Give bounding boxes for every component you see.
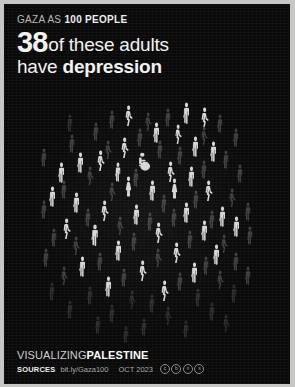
person-icon: [104, 276, 113, 297]
person-icon: [172, 242, 181, 263]
sources-url[interactable]: bit.ly/Gaza100: [61, 365, 109, 374]
person-icon: [187, 166, 196, 187]
person-icon: [132, 168, 140, 187]
person-icon: [208, 302, 216, 321]
person-icon: [100, 200, 109, 221]
person-icon: [90, 224, 100, 246]
person-icon: [204, 180, 213, 201]
person-icon: [92, 122, 100, 141]
person-icon: [68, 134, 76, 153]
big-number: 38: [17, 26, 47, 58]
brand-logo: VISUALIZINGPALESTINE: [17, 349, 280, 361]
person-icon: [76, 152, 85, 173]
brand-bold: PALESTINE: [87, 349, 149, 361]
cc-sa-icon: s: [194, 364, 204, 374]
person-icon: [84, 208, 92, 227]
poster-footer: VISUALIZINGPALESTINE SOURCESbit.ly/Gaza1…: [17, 349, 280, 374]
kicker-prefix: GAZA AS: [17, 14, 64, 25]
person-icon: [236, 164, 244, 183]
person-icon: [222, 150, 230, 169]
person-icon: [94, 316, 102, 334]
sources-line: SOURCESbit.ly/Gaza100OCT 2023 c b n s: [17, 364, 280, 374]
person-icon: [186, 230, 194, 249]
person-icon: [128, 290, 136, 309]
person-icon: [200, 126, 208, 145]
person-icon: [232, 216, 241, 237]
person-icon: [156, 140, 164, 159]
person-icon: [244, 202, 252, 221]
person-icon: [108, 182, 116, 201]
person-icon: [136, 128, 144, 147]
cc-by-icon: b: [171, 364, 181, 374]
person-icon: [194, 288, 202, 307]
poster-header: GAZA AS 100 PEOPLE 38of these adults hav…: [17, 15, 280, 77]
person-icon: [192, 190, 200, 209]
person-icon: [176, 272, 184, 291]
person-icon: [200, 160, 208, 179]
person-icon: [108, 304, 116, 323]
person-icon: [62, 218, 71, 239]
person-icon: [40, 148, 48, 167]
person-icon: [218, 206, 227, 227]
cc-nc-icon: n: [183, 364, 193, 374]
person-icon: [124, 105, 133, 126]
person-icon: [60, 266, 68, 285]
person-icon: [146, 212, 154, 231]
person-icon: [130, 232, 138, 251]
person-icon: [174, 124, 182, 144]
kicker-bold: 100 PEOPLE: [64, 14, 127, 25]
headline-line2-bold: depression: [62, 56, 161, 77]
headline-line1: of these adults: [48, 34, 169, 55]
person-icon: [216, 114, 224, 133]
person-icon: [114, 162, 122, 182]
person-icon: [222, 314, 230, 332]
person-icon: [48, 186, 57, 207]
brand-light: VISUALIZING: [17, 349, 87, 361]
person-icon: [40, 200, 48, 219]
page-title: 38of these adults have depression: [17, 32, 280, 77]
infographic-poster: GAZA AS 100 PEOPLE 38of these adults hav…: [0, 0, 295, 387]
person-icon: [104, 140, 112, 159]
person-icon: [144, 112, 152, 131]
person-icon: [86, 166, 94, 185]
headline-line2-prefix: have: [17, 56, 62, 77]
person-icon: [148, 180, 157, 201]
person-icon: [108, 110, 116, 129]
publish-date: OCT 2023: [118, 365, 152, 374]
person-icon: [86, 286, 94, 305]
cc-icon: c: [160, 364, 170, 374]
person-icon: [230, 284, 238, 303]
person-icon: [66, 114, 74, 132]
person-icon: [116, 216, 124, 235]
person-icon: [42, 248, 50, 267]
person-icon: [209, 141, 218, 162]
person-icon: [160, 194, 168, 213]
person-icon: [232, 128, 240, 147]
person-icon: [140, 318, 148, 336]
person-icon: [232, 252, 240, 271]
person-icon: [114, 240, 123, 261]
person-icon: [60, 180, 68, 199]
person-icon: [66, 300, 74, 319]
person-icon: [182, 320, 190, 338]
headline-line2: have depression: [17, 56, 280, 77]
poster-canvas: GAZA AS 100 PEOPLE 38of these adults hav…: [4, 4, 290, 384]
person-icon: [228, 188, 236, 207]
person-icon: [220, 234, 228, 253]
creative-commons-badges: c b n s: [160, 364, 205, 374]
person-icon: [182, 202, 191, 223]
person-icon: [246, 226, 254, 245]
person-icon: [50, 228, 58, 247]
person-icon: [190, 262, 199, 283]
person-icon: [120, 268, 128, 287]
person-icon: [132, 204, 141, 225]
person-icon: [170, 178, 179, 199]
person-icon: [120, 137, 129, 158]
person-icon: [191, 136, 200, 157]
person-icon: [200, 107, 209, 128]
person-icon: [244, 266, 252, 285]
person-icon: [170, 208, 178, 227]
person-icon: [122, 326, 130, 343]
person-icon: [216, 270, 224, 289]
person-icon: [96, 252, 104, 271]
